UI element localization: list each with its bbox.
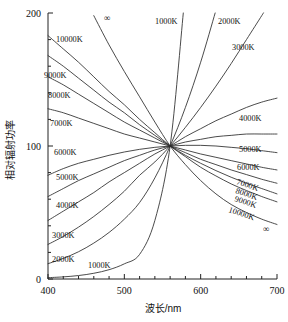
curve-label-3000k: 3000K bbox=[52, 231, 75, 240]
curve-label-2000k: 2000K bbox=[218, 17, 241, 26]
curve-label-5000k: 5000K bbox=[239, 145, 262, 154]
y-axis-title: 相对辐射功率 bbox=[4, 120, 16, 180]
curve-label-8000k: 8000K bbox=[48, 91, 71, 100]
y-tick-labels: 200 100 0 bbox=[26, 8, 41, 285]
curve-label-5000k: 5000K bbox=[56, 173, 79, 182]
x-tick-label-500: 500 bbox=[117, 285, 132, 296]
curve-label-1000k: 1000K bbox=[155, 17, 178, 26]
spectral-power-plot: 200 100 0 400 500 600 700 波长/nm 相对辐射功率 1… bbox=[0, 0, 288, 322]
curve-label-1000k: 1000K bbox=[88, 261, 111, 270]
curve-label-6000k: 6000K bbox=[54, 148, 77, 157]
x-axis-title: 波长/nm bbox=[145, 302, 182, 314]
curve-label-2000k: 2000K bbox=[52, 255, 75, 264]
curve-label-4000k: 4000K bbox=[239, 114, 262, 123]
x-tick-label-600: 600 bbox=[193, 285, 208, 296]
curve-label-set: 10000K9000K8000K7000K6000K5000K4000K3000… bbox=[44, 13, 269, 270]
curve-label-3000k: 3000K bbox=[232, 43, 255, 52]
chart-container: 200 100 0 400 500 600 700 波长/nm 相对辐射功率 1… bbox=[0, 0, 288, 322]
curve-2000k bbox=[48, 13, 215, 264]
curve-label-∞: ∞ bbox=[104, 13, 110, 23]
curve-label-6000k: 6000K bbox=[237, 163, 260, 172]
y-tick-label-0: 0 bbox=[36, 274, 41, 285]
curve-label-4000k: 4000K bbox=[56, 201, 79, 210]
x-tick-label-700: 700 bbox=[270, 285, 285, 296]
y-tick-label-200: 200 bbox=[26, 8, 41, 19]
curve-label-∞: ∞ bbox=[263, 224, 269, 234]
curve-label-7000k: 7000K bbox=[50, 119, 73, 128]
curve-label-9000k: 9000K bbox=[44, 71, 67, 80]
x-tick-label-400: 400 bbox=[41, 285, 56, 296]
y-tick-label-100: 100 bbox=[26, 141, 41, 152]
x-tick-labels: 400 500 600 700 bbox=[41, 285, 285, 296]
curve-label-10000k: 10000K bbox=[56, 35, 83, 44]
